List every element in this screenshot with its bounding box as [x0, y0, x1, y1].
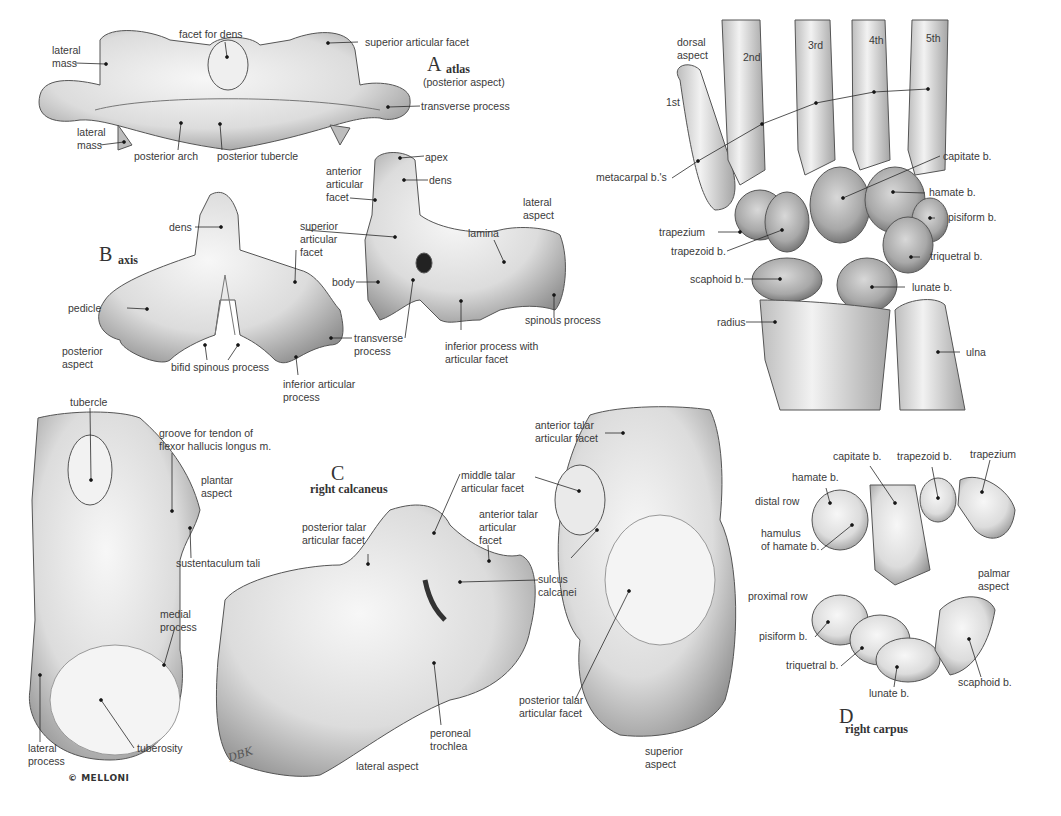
panel-title-calcaneus: right calcaneus [310, 482, 388, 497]
label-lateral-process: lateral process [28, 742, 65, 768]
label-trapezium-palmar: trapezium [970, 448, 1016, 461]
label-medial-process: medial process [160, 608, 197, 634]
label-lateral-mass-bottom: lateral mass [77, 126, 106, 152]
label-superior-articular-facet: superior articular facet [365, 36, 469, 49]
label-groove-flexor-hallucis: groove for tendon of flexor hallucis lon… [159, 427, 271, 453]
label-dorsal-aspect: dorsal aspect [677, 36, 708, 62]
label-apex: apex [425, 151, 448, 164]
label-metacarpal-5th: 5th [926, 32, 941, 45]
label-superior-aspect: superior aspect [645, 745, 683, 771]
label-metacarpal-4th: 4th [869, 34, 884, 47]
label-sulcus-calcanei: sulcus calcanei [538, 573, 577, 599]
label-hamate-palmar: hamate b. [792, 471, 839, 484]
label-spinous-process: spinous process [525, 314, 601, 327]
axis-posterior-illustration [99, 192, 343, 362]
label-capitate-dorsal: capitate b. [943, 150, 991, 163]
calcaneus-plantar-illustration [29, 412, 200, 760]
label-palmar-aspect: palmar aspect [978, 567, 1010, 593]
label-hamate-dorsal: hamate b. [929, 186, 976, 199]
label-anterior-articular-facet: anterior articular facet [326, 165, 363, 204]
label-posterior-talar-facet-superior: posterior talar articular facet [519, 694, 583, 720]
label-ulna: ulna [966, 346, 986, 359]
label-posterior-talar-facet-lateral: posterior talar articular facet [302, 521, 366, 547]
label-dens-posterior: dens [169, 221, 192, 234]
label-inferior-process: inferior process with articular facet [445, 340, 538, 366]
label-sustentaculum-tali: sustentaculum tali [176, 557, 260, 570]
calcaneus-superior-illustration [555, 407, 736, 737]
copyright-notice: © MELLONI [68, 773, 129, 783]
label-middle-talar-facet-lateral: middle talar articular facet [461, 469, 524, 495]
panel-title-carpus: right carpus [845, 722, 908, 737]
panel-title-axis: axis [118, 253, 138, 268]
label-lateral-aspect-axis: lateral aspect [523, 196, 554, 222]
label-peroneal-trochlea: peroneal trochlea [430, 727, 471, 753]
panel-subtitle-atlas: (posterior aspect) [423, 76, 505, 88]
label-bifid-spinous-process: bifid spinous process [171, 361, 269, 374]
label-posterior-tubercle: posterior tubercle [217, 150, 298, 163]
label-lateral-aspect-calcaneus: lateral aspect [356, 760, 418, 773]
label-metacarpals: metacarpal b.'s [596, 171, 667, 184]
label-scaphoid-palmar: scaphoid b. [958, 676, 1012, 689]
label-anterior-talar-facet-superior: anterior talar articular facet [535, 419, 598, 445]
label-distal-row: distal row [755, 495, 799, 508]
label-radius: radius [717, 316, 746, 329]
label-triquetral-dorsal: triquetral b. [930, 250, 983, 263]
label-posterior-arch: posterior arch [134, 150, 198, 163]
label-metacarpal-2nd: 2nd [743, 51, 761, 64]
label-metacarpal-1st: 1st [666, 96, 680, 109]
label-lunate-palmar: lunate b. [869, 687, 909, 700]
panel-letter-a: A [427, 53, 441, 76]
panel-letter-b: B [99, 243, 112, 266]
label-superior-articular-facet-axis: superior articular facet [300, 220, 338, 259]
label-transverse-process-atlas: transverse process [421, 100, 510, 113]
label-proximal-row: proximal row [748, 590, 808, 603]
label-pisiform-palmar: pisiform b. [759, 630, 807, 643]
label-inferior-articular-process: inferior articular process [283, 378, 355, 404]
label-tuberosity: tuberosity [137, 742, 183, 755]
label-pisiform-dorsal: pisiform b. [948, 211, 996, 224]
label-trapezium-dorsal: trapezium [659, 226, 705, 239]
label-transverse-process-axis: transverse process [354, 332, 403, 358]
label-posterior-aspect: posterior aspect [62, 345, 103, 371]
label-lateral-mass-top: lateral mass [52, 44, 81, 70]
label-metacarpal-3rd: 3rd [808, 39, 823, 52]
label-trapezoid-palmar: trapezoid b. [897, 450, 952, 463]
label-tubercle: tubercle [70, 396, 107, 409]
label-pedicle: pedicle [68, 302, 101, 315]
label-anterior-talar-facet-lateral: anterior talar articular facet [479, 508, 538, 547]
label-trapezoid-dorsal: trapezoid b. [671, 245, 726, 258]
wrist-hand-illustration [677, 20, 965, 410]
label-plantar-aspect: plantar aspect [201, 474, 233, 500]
label-capitate-palmar: capitate b. [833, 450, 881, 463]
label-triquetral-palmar: triquetral b. [786, 659, 839, 672]
label-hamulus-of-hamate: hamulus of hamate b. [761, 527, 819, 553]
label-scaphoid-dorsal: scaphoid b. [690, 273, 744, 286]
label-dens-lateral: dens [429, 174, 452, 187]
label-lamina: lamina [468, 227, 499, 240]
panel-title-atlas: atlas [446, 62, 470, 77]
label-lunate-dorsal: lunate b. [912, 281, 952, 294]
label-facet-for-dens: facet for dens [179, 28, 243, 41]
label-body: body [332, 276, 355, 289]
